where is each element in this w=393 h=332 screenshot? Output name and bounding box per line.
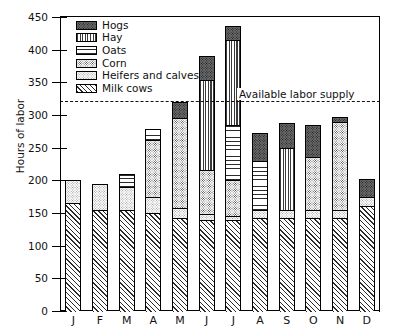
bar-september bbox=[279, 123, 295, 311]
y-axis-label: 300 bbox=[0, 110, 48, 120]
chart-container: Hours of labor 4504003503002502001501005… bbox=[0, 0, 393, 332]
bar-segment-milk-cows bbox=[253, 219, 267, 312]
bar-segment-milk-cows bbox=[66, 204, 80, 312]
bar-april bbox=[145, 129, 161, 311]
bar-segment-hogs bbox=[173, 103, 187, 119]
bar-july bbox=[225, 26, 241, 312]
bar-segment-hogs bbox=[200, 57, 214, 81]
x-axis-label: J bbox=[61, 314, 85, 327]
x-axis-label: M bbox=[168, 314, 192, 327]
y-axis-tick bbox=[52, 148, 60, 149]
bar-segment-heifers-and-calves bbox=[253, 211, 267, 219]
y-axis-label: 350 bbox=[0, 77, 48, 87]
x-axis-label: O bbox=[301, 314, 325, 327]
legend-swatch-milk-icon bbox=[76, 84, 97, 93]
y-axis-label: 50 bbox=[0, 273, 48, 283]
bar-segment-corn bbox=[306, 158, 320, 210]
bar-segment-milk-cows bbox=[333, 219, 347, 312]
bar-june bbox=[199, 56, 215, 311]
bar-segment-milk-cows bbox=[306, 219, 320, 312]
bar-segment-oats bbox=[120, 175, 134, 188]
bar-segment-corn bbox=[146, 141, 160, 198]
y-axis-label: 100 bbox=[0, 241, 48, 251]
bar-segment-heifers-and-calves bbox=[120, 188, 134, 211]
legend-swatch-heifers-icon bbox=[76, 71, 97, 80]
legend-item-milk: Milk cows bbox=[76, 82, 199, 95]
bar-august bbox=[252, 133, 268, 311]
y-axis-tick-inner bbox=[60, 82, 67, 83]
legend-item-corn: Corn bbox=[76, 57, 199, 70]
x-axis-label: J bbox=[221, 314, 245, 327]
y-axis-label: 450 bbox=[0, 12, 48, 22]
bar-segment-milk-cows bbox=[360, 207, 374, 312]
bar-segment-corn bbox=[333, 123, 347, 211]
bar-segment-heifers-and-calves bbox=[280, 211, 294, 219]
bar-segment-milk-cows bbox=[93, 211, 107, 312]
y-axis-tick-inner bbox=[60, 115, 67, 116]
legend-label: Oats bbox=[102, 45, 126, 56]
bar-segment-milk-cows bbox=[226, 221, 240, 312]
bar-segment-hogs bbox=[280, 124, 294, 149]
bar-segment-corn bbox=[200, 171, 214, 215]
y-axis-tick bbox=[52, 180, 60, 181]
bar-segment-milk-cows bbox=[200, 221, 214, 312]
x-axis-label: S bbox=[275, 314, 299, 327]
bar-may bbox=[172, 102, 188, 311]
plot-frame-right bbox=[379, 16, 380, 312]
bar-segment-heifers-and-calves bbox=[360, 198, 374, 208]
x-axis-label: A bbox=[141, 314, 165, 327]
x-axis-label: A bbox=[248, 314, 272, 327]
y-axis-tick-inner bbox=[60, 148, 67, 149]
y-axis-tick bbox=[52, 311, 60, 312]
x-axis-label: J bbox=[195, 314, 219, 327]
y-axis-tick-inner bbox=[60, 17, 67, 18]
bar-segment-heifers-and-calves bbox=[93, 185, 107, 211]
bar-segment-oats bbox=[146, 130, 160, 140]
bar-segment-milk-cows bbox=[146, 214, 160, 312]
bar-segment-heifers-and-calves bbox=[333, 211, 347, 219]
bar-segment-hogs bbox=[306, 126, 320, 159]
y-axis-tick bbox=[52, 50, 60, 51]
bar-march bbox=[119, 174, 135, 311]
legend: HogsHayOatsCornHeifers and calvesMilk co… bbox=[76, 19, 199, 95]
y-axis-tick bbox=[52, 213, 60, 214]
bar-segment-heifers-and-calves bbox=[146, 198, 160, 214]
legend-label: Heifers and calves bbox=[102, 70, 199, 81]
y-axis-tick bbox=[52, 278, 60, 279]
bar-segment-heifers-and-calves bbox=[306, 211, 320, 219]
bar-segment-hogs bbox=[253, 134, 267, 162]
legend-item-heifers: Heifers and calves bbox=[76, 69, 199, 82]
available-labor-supply-label: Available labor supply bbox=[237, 88, 357, 100]
bar-november bbox=[332, 117, 348, 311]
bar-segment-corn bbox=[226, 181, 240, 217]
y-axis-label: 400 bbox=[0, 45, 48, 55]
y-axis-label: 250 bbox=[0, 143, 48, 153]
bar-segment-oats bbox=[253, 162, 267, 211]
bar-segment-milk-cows bbox=[280, 219, 294, 312]
bar-segment-hay bbox=[226, 41, 240, 126]
y-axis-label: 0 bbox=[0, 306, 48, 316]
available-labor-supply-line bbox=[60, 101, 380, 102]
bar-january bbox=[65, 180, 81, 311]
x-axis-label: M bbox=[115, 314, 139, 327]
x-axis-label: F bbox=[88, 314, 112, 327]
bar-october bbox=[305, 125, 321, 311]
x-axis-label: N bbox=[328, 314, 352, 327]
plot-frame-top bbox=[60, 16, 380, 17]
bar-segment-hay bbox=[200, 81, 214, 171]
y-axis-tick bbox=[52, 82, 60, 83]
bar-segment-corn bbox=[173, 119, 187, 209]
x-axis-label: D bbox=[355, 314, 379, 327]
bar-february bbox=[92, 184, 108, 311]
y-axis-tick bbox=[52, 246, 60, 247]
legend-item-hogs: Hogs bbox=[76, 19, 199, 32]
bar-segment-milk-cows bbox=[120, 211, 134, 312]
y-axis-tick bbox=[52, 115, 60, 116]
y-axis-tick-inner bbox=[60, 50, 67, 51]
y-axis-label: 150 bbox=[0, 208, 48, 218]
legend-item-oats: Oats bbox=[76, 44, 199, 57]
bar-segment-hogs bbox=[226, 27, 240, 41]
bar-december bbox=[359, 179, 375, 311]
bar-segment-hay bbox=[280, 149, 294, 211]
legend-label: Hogs bbox=[102, 20, 128, 31]
